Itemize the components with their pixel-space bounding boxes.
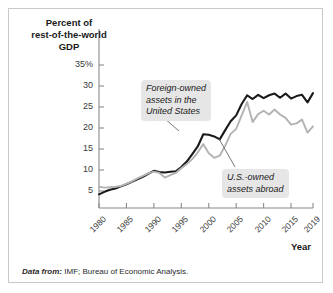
y-axis-tick-label: 30 [63,80,93,90]
y-axis-title-line-3: GDP [17,41,121,53]
annotation-usowned-line-1: U.S.-owned [227,172,284,184]
y-axis-tick-label: 15 [63,143,93,153]
y-axis-tick-label: 20 [63,122,93,132]
chart-figure: Percent of rest-of-the-world GDP Year 51… [8,8,323,283]
y-axis-tick-label: 10 [63,164,93,174]
annotation-foreign-owned-assets: Foreign-owned assets in the United State… [141,80,211,121]
source-note-lead: Data from: [22,267,62,276]
annotation-foreign-line-2: assets in the [146,95,206,107]
source-note-text: IMF; Bureau of Economic Analysis. [62,267,188,276]
y-axis-tick-label: 5 [63,185,93,195]
y-axis-tick-label: 35% [63,59,93,69]
x-axis-title: Year [261,241,311,253]
source-note: Data from: IMF; Bureau of Economic Analy… [22,267,188,276]
y-axis-ticks [99,65,104,191]
annotation-us-owned-assets: U.S.-owned assets abroad [222,169,289,198]
annotation-foreign-line-1: Foreign-owned [146,83,206,95]
x-axis-ticks [99,203,313,208]
y-axis-title-line-1: Percent of [17,17,121,29]
y-axis-title: Percent of rest-of-the-world GDP [17,17,121,53]
y-axis-title-line-2: rest-of-the-world [17,29,121,41]
annotation-usowned-line-2: assets abroad [227,184,284,196]
y-axis-tick-label: 25 [63,101,93,111]
annotation-foreign-line-3: United States [146,106,206,118]
